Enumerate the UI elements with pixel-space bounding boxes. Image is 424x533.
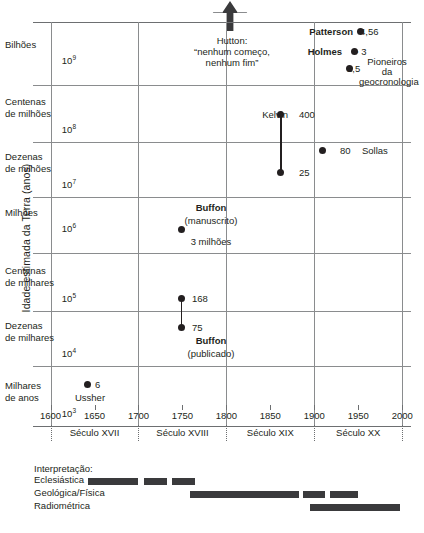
interpretation-bar-segment bbox=[144, 478, 167, 485]
interpretation-title: Interpretação: bbox=[34, 463, 93, 474]
y-band-power: 109 bbox=[0, 52, 81, 67]
x-axis-tick-label: 1700 bbox=[118, 410, 158, 421]
gridline-horizontal bbox=[33, 142, 411, 143]
interpretation-bar-segment bbox=[190, 491, 299, 498]
label-sollas-value: 80 bbox=[340, 145, 351, 156]
label-buffon-75: 75 bbox=[192, 322, 203, 333]
label-ussher-value: 6 bbox=[95, 379, 100, 390]
x-axis-tick-label: 2000 bbox=[382, 410, 422, 421]
label-patterson-name: Patterson bbox=[265, 26, 353, 37]
y-band-label: Centenasde milhares105 bbox=[0, 265, 81, 305]
x-axis-tick-label: 1600 bbox=[31, 410, 71, 421]
gridline-horizontal bbox=[33, 85, 411, 86]
y-band-power: 108 bbox=[0, 121, 81, 136]
label-buffon-manuscrito-value: 3 milhões bbox=[155, 236, 267, 247]
data-point-kelvin-25 bbox=[277, 169, 284, 176]
y-band-name: Dezenasde milhões bbox=[0, 151, 81, 175]
data-point-buffon-75 bbox=[178, 324, 185, 331]
century-label: Século XVII bbox=[50, 427, 140, 438]
gridline-horizontal bbox=[33, 311, 411, 312]
y-band-name: Dezenasde milhares bbox=[0, 320, 81, 344]
label-buffon-publicado-name: Buffon bbox=[155, 335, 267, 346]
interpretation-row-label: Radiométrica bbox=[34, 500, 90, 511]
label-buffon-manuscrito-name: Buffon bbox=[155, 202, 267, 213]
y-band-power: 105 bbox=[0, 290, 81, 305]
label-pioneiros-note: Pioneiros da geocronologia bbox=[359, 57, 415, 87]
gridline-horizontal bbox=[33, 197, 411, 198]
label-holmes-name: Holmes bbox=[259, 46, 342, 57]
label-sollas-name: Sollas bbox=[362, 145, 388, 156]
y-band-name: Milharesde anos bbox=[0, 380, 81, 404]
data-point-buffon-manuscrito bbox=[178, 226, 185, 233]
y-band-name: Centenasde milhões bbox=[0, 96, 81, 120]
label-buffon-168: 168 bbox=[192, 293, 208, 304]
y-band-power: 104 bbox=[0, 345, 81, 360]
connector-buffon-range bbox=[181, 298, 183, 327]
gridline-horizontal bbox=[33, 366, 411, 367]
x-axis-tick-label: 1900 bbox=[294, 410, 334, 421]
y-band-label: Milhões106 bbox=[0, 207, 81, 235]
label-buffon-manuscrito-sub: (manuscrito) bbox=[155, 215, 267, 226]
interpretation-bar-segment bbox=[330, 491, 358, 498]
y-band-name: Bilhões bbox=[0, 39, 81, 51]
y-band-power: 107 bbox=[0, 176, 81, 191]
label-kelvin-name: Kelvin bbox=[213, 109, 288, 120]
interpretation-bar-segment bbox=[310, 504, 400, 511]
y-band-name: Centenasde milhares bbox=[0, 265, 81, 289]
label-patterson-value: 4,56 bbox=[360, 26, 379, 37]
label-buffon-publicado-sub: (publicado) bbox=[155, 348, 267, 359]
century-label: Século XX bbox=[313, 427, 403, 438]
gridline-vertical bbox=[138, 22, 139, 426]
x-axis-tick-label: 1950 bbox=[338, 410, 378, 421]
interpretation-row-label: Geológica/Física bbox=[34, 487, 105, 498]
gridline-horizontal bbox=[33, 22, 411, 23]
gridline-vertical bbox=[314, 22, 315, 426]
century-label: Século XIX bbox=[225, 427, 315, 438]
data-point-sollas-80 bbox=[319, 147, 326, 154]
interpretation-bar-segment bbox=[303, 491, 325, 498]
data-point-buffon-168 bbox=[178, 295, 185, 302]
label-kelvin-25: 25 bbox=[299, 167, 310, 178]
chart-page: Idade estimada da Terra (anos) Hutton: “… bbox=[0, 0, 424, 533]
x-axis-tick-label: 1750 bbox=[162, 410, 202, 421]
x-axis-tick-label: 1650 bbox=[75, 410, 115, 421]
interpretation-row-label: Eclesiástica bbox=[34, 474, 84, 485]
interpretation-bar-segment bbox=[88, 478, 138, 485]
label-kelvin-400: 400 bbox=[299, 109, 315, 120]
gridline-horizontal bbox=[33, 253, 411, 254]
data-point-ussher bbox=[84, 381, 91, 388]
y-band-label: Bilhões109 bbox=[0, 39, 81, 67]
y-band-name: Milhões bbox=[0, 207, 81, 219]
y-band-label: Dezenasde milhões107 bbox=[0, 151, 81, 191]
x-axis-tick-label: 1850 bbox=[250, 410, 290, 421]
y-band-power: 106 bbox=[0, 220, 81, 235]
interpretation-bar-segment bbox=[172, 478, 195, 485]
x-axis-tick-label: 1800 bbox=[206, 410, 246, 421]
y-band-label: Centenasde milhões108 bbox=[0, 96, 81, 136]
plot-area: Hutton: “nenhum começo, nenhum fim” Patt… bbox=[33, 22, 411, 426]
connector-kelvin-range bbox=[280, 114, 282, 172]
century-label: Século XVIII bbox=[137, 427, 227, 438]
label-holmes-value: > 3 bbox=[353, 46, 366, 57]
y-band-label: Dezenasde milhares104 bbox=[0, 320, 81, 360]
